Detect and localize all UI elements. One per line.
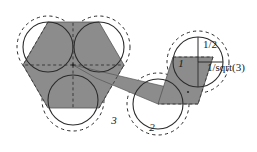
figure-container: 3 2 1 1/2 1/sqrt(3) xyxy=(0,0,257,152)
label-3-text: 3 xyxy=(110,114,117,126)
sliver-apex-dot xyxy=(187,91,189,93)
label-2-text: 2 xyxy=(149,121,155,133)
label-one-over-sqrt-three-text: 1/sqrt(3) xyxy=(207,61,245,74)
label-1-text: 1 xyxy=(178,57,184,69)
hexagon-center-dot xyxy=(72,64,75,67)
geometry-figure: 3 2 1 1/2 1/sqrt(3) xyxy=(0,0,257,152)
label-one-half-text: 1/2 xyxy=(203,38,217,50)
